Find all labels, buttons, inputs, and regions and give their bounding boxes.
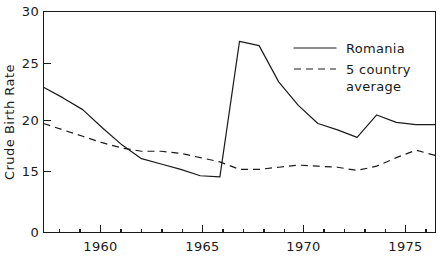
series-line-5-country-average	[44, 124, 436, 171]
legend-label-romania: Romania	[346, 41, 405, 56]
x-tick-label-1970: 1970	[286, 239, 320, 254]
y-axis-title: Crude Birth Rate	[2, 64, 17, 180]
chart-container: 30 25 20 15 0 Crude Birth Rate	[0, 0, 442, 265]
y-tick-label-15: 15	[22, 164, 39, 179]
birth-rate-line-chart: 30 25 20 15 0 Crude Birth Rate	[0, 0, 442, 265]
y-tick-label-0: 0	[30, 225, 39, 240]
y-tick-label-20: 20	[22, 113, 39, 128]
x-tick-label-1975: 1975	[388, 239, 422, 254]
x-tick-label-1965: 1965	[185, 239, 219, 254]
legend-label-average-line2: average	[346, 79, 401, 94]
y-tick-label-25: 25	[22, 56, 39, 71]
y-axis-ticks	[44, 12, 51, 233]
chart-legend: Romania 5 country average	[294, 41, 411, 94]
x-axis-major-ticks	[101, 225, 406, 233]
y-tick-label-30: 30	[22, 4, 39, 19]
x-axis-minor-ticks	[60, 229, 427, 233]
x-tick-label-1960: 1960	[83, 239, 117, 254]
legend-label-average-line1: 5 country	[346, 62, 411, 77]
